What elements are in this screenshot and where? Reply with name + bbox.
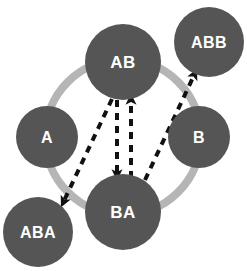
state-node-aba[interactable]: ABA bbox=[3, 197, 73, 267]
state-node-abb[interactable]: ABB bbox=[174, 7, 244, 77]
state-node-label-abb: ABB bbox=[191, 34, 227, 51]
state-node-a[interactable]: A bbox=[16, 106, 78, 168]
state-node-label-aba: ABA bbox=[20, 224, 56, 241]
state-node-label-ab: AB bbox=[110, 53, 135, 72]
state-node-label-b: B bbox=[193, 129, 205, 146]
state-transition-diagram: ABABBABABABA bbox=[0, 0, 247, 271]
state-node-b[interactable]: B bbox=[168, 106, 230, 168]
state-node-label-a: A bbox=[41, 129, 53, 146]
state-node-ab[interactable]: AB bbox=[85, 24, 161, 100]
state-node-label-ba: BA bbox=[110, 203, 135, 222]
diagram-canvas: ABABBABABABA bbox=[0, 0, 247, 271]
state-node-ba[interactable]: BA bbox=[85, 174, 161, 250]
